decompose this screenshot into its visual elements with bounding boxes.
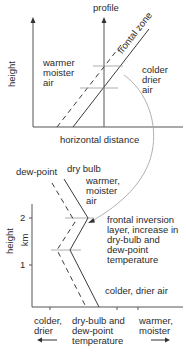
bottom-km-label: km bbox=[20, 234, 30, 247]
right-arrow-icon bbox=[165, 338, 170, 343]
upper-air-label: warmer, moister air bbox=[86, 176, 120, 206]
warm-air-label: warmer moister air bbox=[43, 58, 75, 88]
lower-air-label: colder, drier air bbox=[105, 286, 168, 296]
profile-label: profile bbox=[93, 3, 119, 13]
dew-point-label: dew-point bbox=[16, 167, 57, 177]
horizontal-distance-label: horizontal distance bbox=[60, 135, 139, 145]
profile-arrow-icon bbox=[102, 17, 107, 23]
top-height-label: height bbox=[7, 61, 17, 87]
dew-point-profile bbox=[52, 183, 86, 307]
x-center-label: dry-bulb and dew-point temperature bbox=[72, 316, 125, 346]
tick-1-label: 1 bbox=[20, 260, 25, 270]
x-right-label: warmer, moister bbox=[139, 316, 173, 336]
left-arrow-icon bbox=[37, 338, 42, 343]
bottom-height-label: height bbox=[5, 228, 15, 254]
inversion-label: frontal inversion layer, increase in dry… bbox=[107, 215, 178, 265]
cold-air-label: colder drier air bbox=[142, 65, 168, 95]
dry-bulb-label: dry bulb bbox=[67, 164, 101, 174]
frontal-zone-solid-line bbox=[73, 29, 149, 127]
tick-2-label: 2 bbox=[20, 213, 25, 223]
top-height-axis-arrow-icon bbox=[31, 17, 36, 23]
connector-arrow-icon bbox=[88, 218, 95, 223]
x-left-label: colder, drier bbox=[34, 316, 62, 336]
